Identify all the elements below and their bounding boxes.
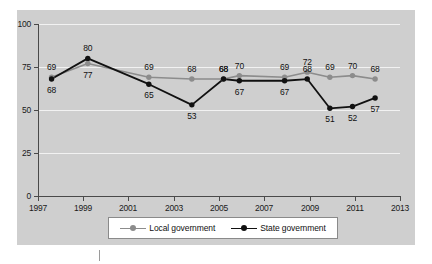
- data-point: [189, 102, 194, 107]
- data-point: [350, 104, 355, 109]
- caption-tick-mark: [99, 250, 100, 261]
- data-point: [237, 73, 242, 78]
- legend-label-state: State government: [260, 224, 326, 233]
- data-label: 65: [138, 91, 160, 99]
- data-label: 69: [138, 63, 160, 71]
- data-label: 68: [213, 65, 235, 73]
- data-label: 68: [364, 65, 386, 73]
- data-label: 69: [41, 63, 63, 71]
- data-label: 67: [274, 88, 296, 96]
- data-label: 69: [274, 63, 296, 71]
- data-point: [146, 75, 151, 80]
- data-label: 80: [77, 44, 99, 52]
- legend-item-state-government[interactable]: State government: [231, 224, 326, 233]
- data-point: [237, 78, 242, 83]
- data-point: [327, 106, 332, 111]
- data-label: 68: [296, 65, 318, 73]
- data-point: [221, 76, 226, 81]
- data-point: [282, 78, 287, 83]
- chart-legend: Local government State government: [108, 217, 338, 239]
- chart-figure: 100 75 50 25 0 1997 1999 2001 2003 2005 …: [0, 0, 432, 264]
- data-point: [146, 82, 151, 87]
- data-label: 57: [364, 105, 386, 113]
- data-point: [327, 75, 332, 80]
- data-point: [49, 76, 54, 81]
- legend-swatch-state-icon: [231, 224, 257, 232]
- data-label: 53: [181, 112, 203, 120]
- data-label: 68: [41, 86, 63, 94]
- legend-label-local: Local government: [149, 224, 215, 233]
- data-label: 52: [342, 114, 364, 122]
- data-point: [189, 76, 194, 81]
- data-point: [305, 76, 310, 81]
- data-label: 77: [77, 71, 99, 79]
- legend-item-local-government[interactable]: Local government: [120, 224, 215, 233]
- data-label: 69: [319, 63, 341, 71]
- data-label: 68: [181, 65, 203, 73]
- data-point: [85, 56, 90, 61]
- data-label: 51: [319, 115, 341, 123]
- legend-swatch-local-icon: [120, 224, 146, 232]
- data-label: 67: [228, 88, 250, 96]
- data-label: 70: [342, 62, 364, 70]
- data-point: [85, 61, 90, 66]
- data-point: [372, 76, 377, 81]
- data-point: [350, 73, 355, 78]
- data-point: [372, 95, 377, 100]
